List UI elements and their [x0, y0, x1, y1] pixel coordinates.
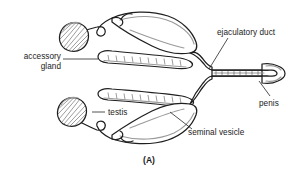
label-accessory-gland-line1: accessory — [24, 52, 62, 61]
penis — [262, 64, 285, 84]
label-penis: penis — [259, 99, 279, 108]
label-seminal-vesicle: seminal vesicle — [188, 128, 245, 137]
testis-upper — [59, 22, 89, 51]
ejaculatory-duct — [190, 52, 268, 104]
seminal-vesicle-upper — [112, 12, 197, 54]
label-accessory-gland-line2: gland — [41, 62, 62, 71]
leader-ejaculatory-duct — [209, 38, 228, 69]
testis-lower — [57, 97, 87, 126]
label-ejaculatory-duct: ejaculatory duct — [217, 28, 276, 37]
label-testis: testis — [108, 108, 127, 117]
panel-caption: (A) — [143, 155, 155, 165]
anatomical-diagram: accessory gland testis ejaculatory duct … — [0, 0, 298, 175]
figure-panel-a: accessory gland testis ejaculatory duct … — [0, 0, 298, 175]
